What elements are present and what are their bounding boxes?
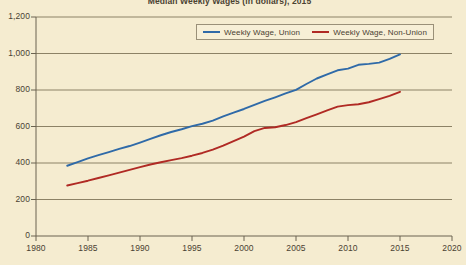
x-axis-tick-label: 1985: [68, 243, 108, 253]
x-axis-tick-label: 2005: [276, 243, 316, 253]
x-axis-tick-label: 2020: [432, 243, 466, 253]
y-axis-ticks: [31, 17, 36, 236]
x-axis-tick-label: 2010: [328, 243, 368, 253]
y-axis-tick-label: 200: [0, 194, 30, 204]
y-axis-tick-label: 600: [0, 121, 30, 131]
x-axis-tick-label: 2000: [224, 243, 264, 253]
legend-label-union: Weekly Wage, Union: [224, 28, 300, 37]
x-axis-tick-label: 1990: [120, 243, 160, 253]
legend-swatch-non-union: [312, 31, 329, 33]
legend-label-non-union: Weekly Wage, Non-Union: [333, 28, 427, 37]
y-axis-tick-label: 800: [0, 84, 30, 94]
legend-entry-union: Weekly Wage, Union: [203, 28, 300, 37]
x-axis-ticks: [36, 236, 452, 241]
x-axis-tick-label: 2015: [380, 243, 420, 253]
data-series-lines: [67, 54, 400, 185]
legend-entry-non-union: Weekly Wage, Non-Union: [312, 28, 427, 37]
x-axis-tick-label: 1995: [172, 243, 212, 253]
chart-legend: Weekly Wage, Union Weekly Wage, Non-Unio…: [196, 24, 434, 40]
y-axis-tick-label: 400: [0, 157, 30, 167]
legend-swatch-union: [203, 31, 220, 33]
y-axis-tick-label: 1,200: [0, 11, 30, 21]
series-line-0: [67, 54, 400, 165]
series-line-1: [67, 92, 400, 186]
y-axis-tick-label: 1,000: [0, 48, 30, 58]
x-axis-tick-label: 1980: [16, 243, 56, 253]
y-axis-tick-label: 0: [0, 230, 30, 240]
